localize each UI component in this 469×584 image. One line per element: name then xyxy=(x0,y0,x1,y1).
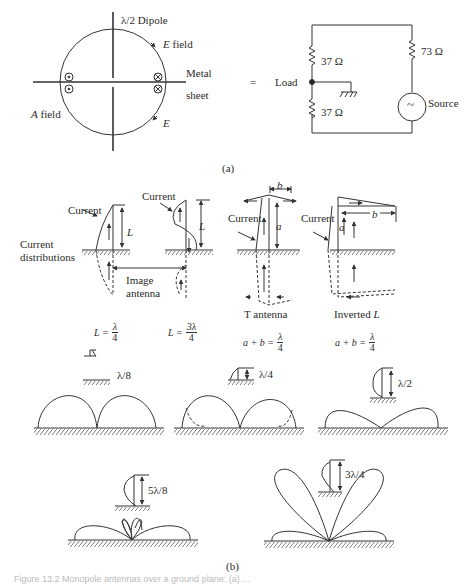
pattern-lambda-4 xyxy=(174,368,304,435)
current-label-3: Current xyxy=(228,212,262,224)
pattern-label-5lambda-8: 5λ/8 xyxy=(148,484,167,496)
pattern-label-lambda-2: λ/2 xyxy=(398,377,412,389)
a-field-label: A field xyxy=(31,108,61,120)
pattern-lambda-2 xyxy=(318,368,448,435)
current-label-1: Current xyxy=(68,204,102,216)
equation-three-quarter-wave: L = 3λ4 xyxy=(168,322,197,343)
current-distributions-line2: distributions xyxy=(20,251,75,263)
dipole-diagram xyxy=(33,12,186,151)
part-b-label: (b) xyxy=(226,560,239,572)
inverted-l-label: Inverted L xyxy=(334,308,380,320)
image-antenna-line1: Image xyxy=(126,274,153,286)
l-label-2: L xyxy=(199,220,205,232)
image-antenna-line2: antenna xyxy=(126,287,160,299)
load-label: Load xyxy=(275,76,298,88)
ground-planes-top xyxy=(82,250,395,255)
source-symbol: ~ xyxy=(407,99,414,111)
e-label: E xyxy=(163,117,170,129)
pattern-5lambda-8 xyxy=(68,475,198,547)
metal-label: Metal xyxy=(186,67,212,79)
part-a-label: (a) xyxy=(222,162,234,174)
dipole-label: λ/2 Dipole xyxy=(121,14,168,26)
pattern-lambda-8 xyxy=(34,350,164,435)
equation-t-antenna: a + b = λ4 xyxy=(243,332,283,353)
current-label-4: Current xyxy=(301,212,335,224)
resistor-3-label: 73 Ω xyxy=(421,45,443,57)
resistor-1-label: 37 Ω xyxy=(321,55,343,67)
b-label-inv: b xyxy=(370,208,380,220)
e-field-label: E field xyxy=(163,38,193,50)
equation-inverted-l: a + b = λ4 xyxy=(335,332,375,353)
current-distributions-line1: Current xyxy=(20,238,54,250)
b-label-t: b xyxy=(277,179,283,191)
pattern-label-lambda-4: λ/4 xyxy=(259,368,273,380)
t-antenna-label: T antenna xyxy=(244,308,287,320)
current-label-2: Current xyxy=(142,190,176,202)
equation-quarter-wave: L = λ4 xyxy=(94,322,118,343)
sheet-label: sheet xyxy=(186,89,209,101)
pattern-label-3lambda-4: 3λ/4 xyxy=(345,468,364,480)
pattern-label-lambda-8: λ/8 xyxy=(117,369,131,381)
t-antenna xyxy=(238,186,296,305)
l-label-1: L xyxy=(127,226,133,238)
pattern-3lambda-4 xyxy=(264,460,394,548)
equals-sign: = xyxy=(250,76,256,88)
a-label-inv: a xyxy=(339,221,345,233)
resistor-2-label: 37 Ω xyxy=(321,106,343,118)
a-label-t: a xyxy=(276,220,282,232)
source-label: Source xyxy=(428,97,459,109)
figure-caption: Figure 13.2 Monopole antennas over a gro… xyxy=(14,574,250,584)
